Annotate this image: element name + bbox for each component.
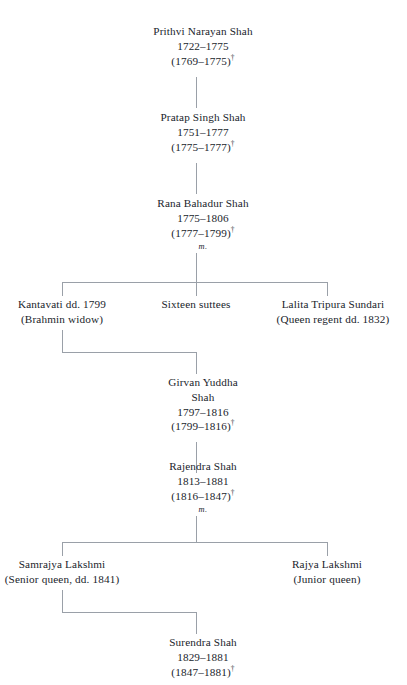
person-description: (Senior queen, dd. 1841)	[0, 572, 124, 587]
person-reign-dates: (1799–1816)†	[103, 419, 303, 434]
node-kantavati: Kantavati dd. 1799 (Brahmin widow)	[2, 297, 122, 327]
dagger-icon: †	[231, 139, 235, 148]
person-name: Kantavati dd. 1799	[2, 297, 122, 312]
genealogy-chart: Prithvi Narayan Shah 1722–1775 (1769–177…	[0, 0, 407, 685]
dagger-icon: †	[231, 225, 235, 234]
person-reign-dates: (1769–1775)†	[103, 54, 303, 69]
dagger-icon: †	[231, 53, 235, 62]
dagger-icon: †	[231, 664, 235, 673]
connector-prithvi-to-pratap	[196, 77, 197, 108]
person-name: Rana Bahadur Shah	[103, 196, 303, 211]
connector-girvan-stem	[196, 352, 197, 374]
node-surendra-shah: Surendra Shah 1829–1881 (1847–1881)†	[103, 635, 303, 679]
person-name: Lalita Tripura Sundari	[262, 297, 404, 312]
node-lalita-tripura-sundari: Lalita Tripura Sundari (Queen regent dd.…	[262, 297, 404, 327]
person-reign-dates: (1847–1881)†	[103, 665, 303, 680]
connector-kantavati-to-girvan-horizontal	[62, 352, 197, 353]
person-reign-dates: (1777–1799)†	[103, 226, 303, 241]
node-prithvi-narayan-shah: Prithvi Narayan Shah 1722–1775 (1769–177…	[103, 24, 303, 68]
person-name: Rajya Lakshmi	[265, 557, 389, 572]
person-life-dates: 1813–1881	[103, 474, 303, 489]
connector-kantavati-drop	[62, 330, 63, 352]
person-name: Sixteen suttees	[136, 297, 256, 312]
connector-surendra-stem	[196, 612, 197, 634]
connector-consorts-horizontal-bar	[62, 282, 328, 283]
connector-rajendra-stem	[196, 516, 197, 542]
connector-samrajya-to-surendra-horizontal	[62, 612, 197, 613]
person-name: Girvan Yuddha Shah	[103, 375, 303, 405]
person-name: Surendra Shah	[103, 635, 303, 650]
marriage-marker: m.	[103, 241, 303, 252]
node-rajendra-shah: Rajendra Shah 1813–1881 (1816–1847)† m.	[103, 459, 303, 515]
node-rajya-lakshmi: Rajya Lakshmi (Junior queen)	[265, 557, 389, 587]
person-life-dates: 1797–1816	[103, 405, 303, 420]
person-name: Samrajya Lakshmi	[0, 557, 124, 572]
person-name: Prithvi Narayan Shah	[103, 24, 303, 39]
node-samrajya-lakshmi: Samrajya Lakshmi (Senior queen, dd. 1841…	[0, 557, 124, 587]
node-rana-bahadur-shah: Rana Bahadur Shah 1775–1806 (1777–1799)†…	[103, 196, 303, 252]
connector-branch-to-lalita	[327, 282, 328, 296]
person-name: Pratap Singh Shah	[103, 110, 303, 125]
person-description: (Queen regent dd. 1832)	[262, 312, 404, 327]
person-description: (Brahmin widow)	[2, 312, 122, 327]
connector-rana-bahadur-stem	[196, 253, 197, 282]
person-life-dates: 1829–1881	[103, 650, 303, 665]
node-sixteen-suttees: Sixteen suttees	[136, 297, 256, 312]
node-girvan-yuddha-shah: Girvan Yuddha Shah 1797–1816 (1799–1816)…	[103, 375, 303, 434]
person-description: (Junior queen)	[265, 572, 389, 587]
connector-branch-to-samrajya	[62, 542, 63, 556]
connector-queens-horizontal-bar	[62, 542, 328, 543]
marriage-marker: m.	[103, 504, 303, 515]
person-life-dates: 1722–1775	[103, 39, 303, 54]
person-name: Rajendra Shah	[103, 459, 303, 474]
connector-pratap-to-rana-bahadur	[196, 163, 197, 194]
node-pratap-singh-shah: Pratap Singh Shah 1751–1777 (1775–1777)†	[103, 110, 303, 154]
connector-branch-to-rajya	[327, 542, 328, 556]
dagger-icon: †	[231, 419, 235, 428]
dagger-icon: †	[231, 488, 235, 497]
person-life-dates: 1775–1806	[103, 211, 303, 226]
person-reign-dates: (1816–1847)†	[103, 489, 303, 504]
connector-samrajya-drop	[62, 590, 63, 612]
connector-branch-to-kantavati	[62, 282, 63, 296]
person-life-dates: 1751–1777	[103, 125, 303, 140]
connector-branch-to-suttees	[196, 282, 197, 296]
person-reign-dates: (1775–1777)†	[103, 140, 303, 155]
